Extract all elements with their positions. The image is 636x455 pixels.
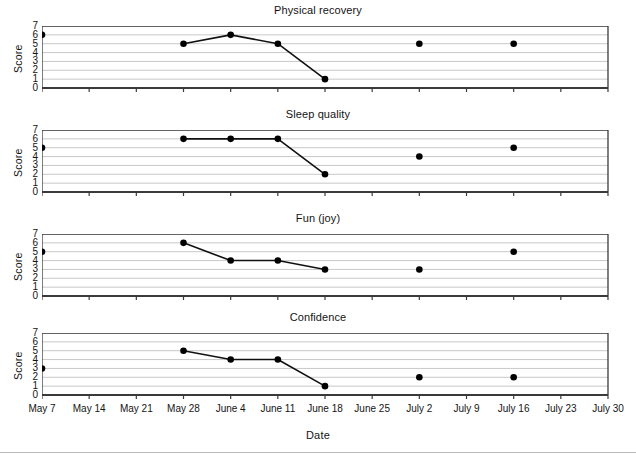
plot-area — [42, 26, 612, 94]
y-tick-label: 3 — [22, 264, 38, 273]
data-point-marker — [416, 374, 423, 381]
data-point-marker — [227, 32, 234, 39]
chart-panel: Sleep qualityScore01234567 — [0, 108, 636, 202]
data-point-marker — [510, 248, 517, 255]
x-tick-label: May 28 — [167, 403, 200, 414]
data-point-marker — [42, 32, 45, 39]
data-point-marker — [322, 171, 329, 178]
data-line — [184, 35, 326, 79]
x-tick-label: July 23 — [545, 403, 577, 414]
plot-area — [42, 333, 612, 401]
y-tick-label: 1 — [22, 282, 38, 291]
y-tick-label: 2 — [22, 65, 38, 74]
y-tick-label: 2 — [22, 273, 38, 282]
x-tick-label: July 16 — [498, 403, 530, 414]
y-tick-label: 0 — [22, 390, 38, 399]
y-tick-label: 6 — [22, 134, 38, 143]
data-point-marker — [322, 266, 329, 273]
shared-x-axis: May 7May 14May 21May 28June 4June 11June… — [0, 403, 636, 419]
panel-title: Physical recovery — [0, 4, 636, 16]
data-point-marker — [510, 40, 517, 47]
x-tick-label: June 25 — [354, 403, 390, 414]
panel-title: Sleep quality — [0, 108, 636, 120]
y-tick-label: 6 — [22, 238, 38, 247]
x-tick-label: July 30 — [592, 403, 624, 414]
x-tick-label: July 9 — [453, 403, 479, 414]
data-point-marker — [180, 240, 187, 247]
data-line — [184, 243, 326, 270]
plot-area — [42, 130, 612, 198]
x-tick-label: July 2 — [406, 403, 432, 414]
panel-title: Fun (joy) — [0, 212, 636, 224]
data-point-marker — [416, 266, 423, 273]
x-axis-title: Date — [0, 429, 636, 441]
y-tick-label: 2 — [22, 372, 38, 381]
y-tick-label: 5 — [22, 143, 38, 152]
data-point-marker — [42, 365, 45, 372]
x-tick-label: May 14 — [73, 403, 106, 414]
data-point-marker — [180, 347, 187, 354]
y-tick-label: 1 — [22, 381, 38, 390]
y-tick-label: 7 — [22, 125, 38, 134]
data-point-marker — [510, 374, 517, 381]
x-tick-label: May 21 — [120, 403, 153, 414]
y-tick-label: 5 — [22, 346, 38, 355]
data-point-marker — [322, 383, 329, 390]
data-point-marker — [510, 144, 517, 151]
bottom-divider-rule — [0, 452, 636, 453]
y-tick-label: 4 — [22, 256, 38, 265]
panel-title: Confidence — [0, 311, 636, 323]
data-point-marker — [227, 257, 234, 264]
y-tick-label: 4 — [22, 48, 38, 57]
x-tick-label: June 4 — [216, 403, 246, 414]
data-point-marker — [275, 136, 282, 143]
y-tick-label: 4 — [22, 355, 38, 364]
chart-panel: ConfidenceScore01234567 — [0, 311, 636, 405]
data-point-marker — [275, 356, 282, 363]
data-point-marker — [42, 144, 45, 151]
y-tick-label: 4 — [22, 152, 38, 161]
y-tick-label: 0 — [22, 83, 38, 92]
y-tick-label: 5 — [22, 39, 38, 48]
multi-panel-line-chart: Physical recoveryScore01234567Sleep qual… — [0, 0, 636, 455]
data-point-marker — [180, 40, 187, 47]
data-point-marker — [42, 248, 45, 255]
y-tick-label: 7 — [22, 328, 38, 337]
data-point-marker — [322, 76, 329, 83]
y-tick-label: 6 — [22, 30, 38, 39]
y-tick-label: 0 — [22, 187, 38, 196]
y-tick-label: 1 — [22, 74, 38, 83]
data-point-marker — [416, 40, 423, 47]
data-point-marker — [227, 136, 234, 143]
y-tick-label: 3 — [22, 56, 38, 65]
y-tick-label: 5 — [22, 247, 38, 256]
x-tick-label: May 7 — [28, 403, 55, 414]
y-tick-label: 2 — [22, 169, 38, 178]
y-tick-label: 6 — [22, 337, 38, 346]
y-tick-label: 0 — [22, 291, 38, 300]
data-point-marker — [275, 40, 282, 47]
y-tick-label: 1 — [22, 178, 38, 187]
plot-area — [42, 234, 612, 302]
y-tick-label: 3 — [22, 160, 38, 169]
data-point-marker — [416, 153, 423, 160]
y-tick-label: 7 — [22, 21, 38, 30]
data-point-marker — [180, 136, 187, 143]
data-point-marker — [227, 356, 234, 363]
y-tick-label: 7 — [22, 229, 38, 238]
chart-panel: Physical recoveryScore01234567 — [0, 4, 636, 98]
x-tick-label: June 11 — [260, 403, 295, 414]
x-tick-label: June 18 — [307, 403, 343, 414]
y-tick-label: 3 — [22, 363, 38, 372]
data-point-marker — [275, 257, 282, 264]
chart-panel: Fun (joy)Score01234567 — [0, 212, 636, 306]
